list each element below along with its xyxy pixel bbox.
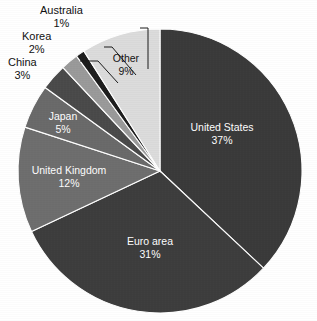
slice-label-value: 5%: [55, 123, 70, 135]
slice-label-name: United States: [190, 121, 253, 133]
slice-label-korea: Korea2%: [22, 30, 51, 56]
slice-label-value: 1%: [40, 17, 83, 30]
slice-label-value: 12%: [58, 177, 79, 189]
slice-label-name: Japan: [49, 110, 78, 122]
slice-label-name: Other: [113, 52, 140, 64]
pie-chart-figure: United States37%Euro area31%United Kingd…: [0, 0, 317, 321]
slice-label-name: China: [8, 56, 37, 69]
slice-label-china: China3%: [8, 56, 37, 82]
slice-label-name: Australia: [40, 4, 83, 17]
slice-label-australia: Australia1%: [40, 4, 83, 30]
slice-label-name: Euro area: [127, 235, 173, 247]
slice-label-value: 9%: [118, 65, 133, 77]
slice-label-value: 2%: [22, 43, 51, 56]
slice-label-value: 3%: [8, 69, 37, 82]
slice-label-name: Korea: [22, 30, 51, 43]
slice-label-value: 37%: [211, 134, 232, 146]
slice-label-name: United Kingdom: [32, 164, 107, 176]
slice-label-value: 31%: [139, 248, 160, 260]
